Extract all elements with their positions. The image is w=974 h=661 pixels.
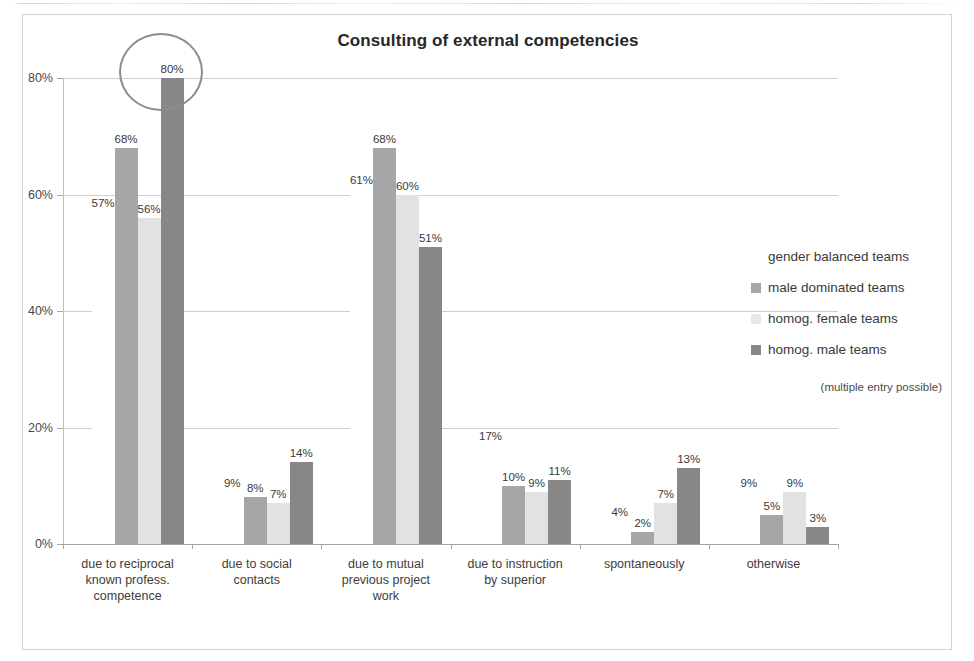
- y-axis-label-0%: 0%: [35, 537, 53, 551]
- x-axis-group-separator: [192, 544, 193, 549]
- bar-group-1: 57%68%56%80%due to reciprocalknown profe…: [63, 78, 192, 544]
- data-label-2-4: 14%: [290, 447, 313, 459]
- bar-1-2[interactable]: [115, 148, 138, 544]
- bar-4-4[interactable]: [548, 480, 571, 544]
- x-axis-group-separator: [580, 544, 581, 549]
- bar-3-1[interactable]: [350, 189, 373, 544]
- chart-title: Consulting of external competencies: [23, 31, 953, 51]
- bar-3-2[interactable]: [373, 148, 396, 544]
- x-axis-group-separator: [838, 544, 839, 549]
- data-label-4-2: 10%: [502, 471, 525, 483]
- plot-area: 0%20%40%60%80% 57%68%56%80%due to recipr…: [63, 78, 838, 544]
- bars-container: 17%10%9%11%: [451, 78, 580, 544]
- legend-swatch-icon: [751, 314, 761, 324]
- x-axis-group-separator: [321, 544, 322, 549]
- data-label-4-4: 11%: [548, 465, 570, 477]
- data-label-6-4: 3%: [810, 512, 827, 524]
- bar-6-3[interactable]: [783, 492, 806, 544]
- data-label-6-2: 5%: [764, 500, 781, 512]
- data-label-6-1: 9%: [741, 477, 758, 489]
- data-label-1-1: 57%: [92, 197, 115, 209]
- bar-2-4[interactable]: [290, 462, 313, 544]
- bar-group-4: 17%10%9%11%due to instructionby superior: [451, 78, 580, 544]
- legend-item-1[interactable]: gender balanced teams: [751, 241, 946, 272]
- data-label-1-3: 56%: [138, 203, 161, 215]
- x-axis-category-label: due to instructionby superior: [456, 556, 574, 588]
- bar-group-3: 61%68%60%51%due to mutualprevious projec…: [321, 78, 450, 544]
- bar-6-1[interactable]: [737, 492, 760, 544]
- data-label-3-2: 68%: [373, 133, 396, 145]
- data-label-5-3: 7%: [657, 488, 674, 500]
- bar-6-4[interactable]: [806, 527, 829, 544]
- bar-2-3[interactable]: [267, 503, 290, 544]
- data-label-2-3: 7%: [270, 488, 287, 500]
- bar-2-1[interactable]: [221, 492, 244, 544]
- chart-frame: Consulting of external competencies 0%20…: [22, 14, 952, 650]
- bar-5-1[interactable]: [608, 521, 631, 544]
- legend-swatch-icon: [751, 283, 761, 293]
- legend-note: (multiple entry possible): [751, 381, 946, 393]
- data-label-4-3: 9%: [528, 477, 545, 489]
- bar-3-3[interactable]: [396, 195, 419, 545]
- x-axis-group-separator: [63, 544, 64, 549]
- x-axis-category-label: due to reciprocalknown profess.competenc…: [69, 556, 187, 604]
- x-axis-category-label: due to mutualprevious projectwork: [327, 556, 445, 604]
- legend-swatch-icon: [751, 252, 761, 262]
- x-axis-category-label: otherwise: [714, 556, 832, 572]
- x-axis-category-label: spontaneously: [585, 556, 703, 572]
- y-axis-label-40%: 40%: [28, 304, 53, 318]
- data-label-3-4: 51%: [419, 232, 442, 244]
- bars-container: 57%68%56%80%: [63, 78, 192, 544]
- data-label-5-1: 4%: [611, 506, 628, 518]
- y-axis-label-20%: 20%: [28, 421, 53, 435]
- bars-container: 9%8%7%14%: [192, 78, 321, 544]
- data-label-5-2: 2%: [634, 517, 651, 529]
- legend-item-3[interactable]: homog. female teams: [751, 303, 946, 334]
- bar-5-3[interactable]: [654, 503, 677, 544]
- legend-item-label: homog. male teams: [768, 342, 887, 357]
- legend-items: gender balanced teamsmale dominated team…: [751, 241, 946, 365]
- bar-3-4[interactable]: [419, 247, 442, 544]
- x-axis-group-separator: [709, 544, 710, 549]
- legend-item-label: male dominated teams: [768, 280, 905, 295]
- bar-1-1[interactable]: [92, 212, 115, 544]
- bar-group-2: 9%8%7%14%due to socialcontacts: [192, 78, 321, 544]
- bar-4-1[interactable]: [479, 445, 502, 544]
- data-label-5-4: 13%: [677, 453, 700, 465]
- y-axis-label-80%: 80%: [28, 71, 53, 85]
- bars-container: 61%68%60%51%: [321, 78, 450, 544]
- legend-item-2[interactable]: male dominated teams: [751, 272, 946, 303]
- bar-6-2[interactable]: [760, 515, 783, 544]
- x-axis-category-label: due to socialcontacts: [198, 556, 316, 588]
- bar-4-2[interactable]: [502, 486, 525, 544]
- data-label-2-1: 9%: [224, 477, 241, 489]
- data-label-3-1: 61%: [350, 174, 373, 186]
- bar-5-2[interactable]: [631, 532, 654, 544]
- data-label-2-2: 8%: [247, 482, 264, 494]
- bar-5-4[interactable]: [677, 468, 700, 544]
- data-label-1-4: 80%: [161, 63, 184, 75]
- scan-artifact-line: [0, 3, 974, 4]
- legend-item-label: gender balanced teams: [768, 249, 909, 264]
- bar-group-5: 4%2%7%13%spontaneously: [580, 78, 709, 544]
- chart-legend: gender balanced teamsmale dominated team…: [751, 241, 946, 393]
- data-label-1-2: 68%: [115, 133, 138, 145]
- bars-container: 4%2%7%13%: [580, 78, 709, 544]
- legend-item-4[interactable]: homog. male teams: [751, 334, 946, 365]
- x-axis-group-separator: [451, 544, 452, 549]
- bar-1-3[interactable]: [138, 218, 161, 544]
- data-label-3-3: 60%: [396, 180, 419, 192]
- legend-swatch-icon: [751, 345, 761, 355]
- legend-item-label: homog. female teams: [768, 311, 898, 326]
- bar-1-4[interactable]: [161, 78, 184, 544]
- bar-2-2[interactable]: [244, 497, 267, 544]
- bar-4-3[interactable]: [525, 492, 548, 544]
- data-label-6-3: 9%: [787, 477, 804, 489]
- y-axis-label-60%: 60%: [28, 188, 53, 202]
- data-label-4-1: 17%: [479, 430, 502, 442]
